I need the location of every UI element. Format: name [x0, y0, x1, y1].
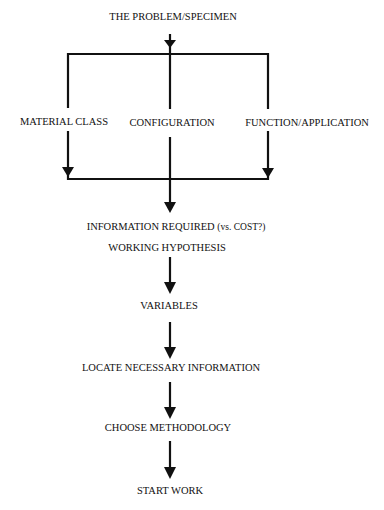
flowchart-diagram: THE PROBLEM/SPECIMEN MATERIAL CLASS CONF…: [0, 0, 384, 510]
arrowhead-material: [62, 167, 74, 177]
arrowhead-problem: [164, 40, 176, 48]
node-choose-methodology: CHOOSE METHODOLOGY: [105, 422, 231, 434]
node-start-work: START WORK: [137, 485, 203, 497]
arrowhead-methodology: [164, 407, 176, 419]
node-information-required: INFORMATION REQUIRED (vs. COST?): [87, 221, 266, 233]
node-working-hypothesis: WORKING HYPOTHESIS: [108, 242, 226, 254]
node-locate-information: LOCATE NECESSARY INFORMATION: [82, 362, 260, 374]
arrowhead-start: [164, 467, 176, 479]
collecting-bar: [68, 168, 268, 179]
node-configuration: CONFIGURATION: [129, 117, 214, 129]
arrowhead-info: [164, 202, 176, 213]
arrowhead-function: [262, 168, 274, 178]
arrowhead-variables: [164, 282, 176, 294]
arrowhead-locate: [164, 347, 176, 359]
distribution-bar: [68, 54, 268, 109]
info-cost-note: (vs. COST?): [217, 222, 265, 232]
info-label: INFORMATION REQUIRED: [87, 221, 215, 232]
node-variables: VARIABLES: [140, 300, 198, 312]
node-function-application: FUNCTION/APPLICATION: [245, 117, 369, 129]
node-material-class: MATERIAL CLASS: [20, 116, 108, 128]
node-problem: THE PROBLEM/SPECIMEN: [109, 11, 236, 23]
